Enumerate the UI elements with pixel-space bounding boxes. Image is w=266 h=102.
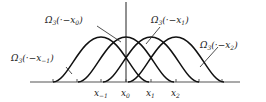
tick-label-x1: x1 (146, 88, 155, 99)
tick-label-x2: x2 (171, 88, 180, 99)
curve-x-1 (103, 37, 199, 82)
label-omega-x1: Ω3(·−x1) (150, 15, 189, 26)
tick-label-x-minus-1: x−1 (94, 88, 108, 99)
label-omega-x-minus-1: Ω3(·−x−1) (10, 53, 54, 64)
label-omega-x2: Ω3(·−x2) (199, 40, 238, 51)
label-omega-x0: Ω3(·−x0) (44, 15, 83, 26)
tick-label-x0: x0 (121, 88, 130, 99)
leader-x1 (146, 27, 160, 44)
bump-function-diagram: Ω3(·−x0) Ω3(·−x1) Ω3(·−x−1) Ω3(·−x2) x−1… (0, 0, 266, 102)
curve-x-minus-1 (53, 37, 149, 82)
